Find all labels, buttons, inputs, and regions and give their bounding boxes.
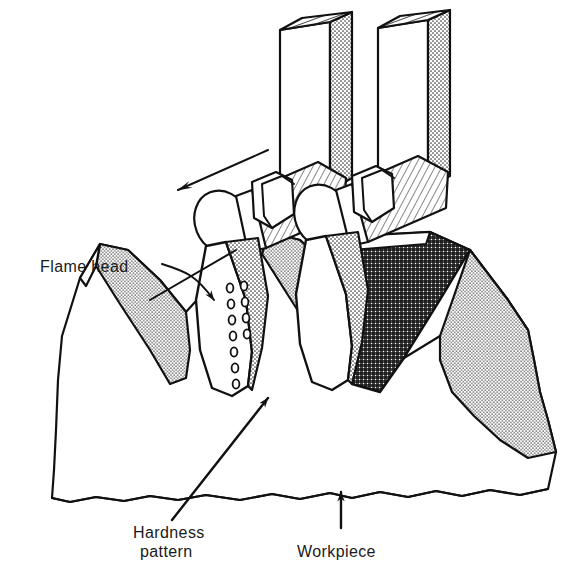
label-workpiece: Workpiece — [297, 543, 376, 560]
flame-head-left — [196, 238, 268, 396]
figure-canvas: Flame head Hardness pattern Workpiece — [0, 0, 580, 575]
tube-right-side-stipple — [428, 10, 450, 188]
flame-hardening-figure: Flame head Hardness pattern Workpiece — [0, 0, 580, 575]
label-hardness-pattern-line1: Hardness — [133, 524, 205, 541]
label-flame-head: Flame head — [40, 258, 129, 275]
tube-left-side-stipple — [330, 12, 352, 190]
flame-head-right — [296, 232, 368, 390]
label-hardness-pattern-line2: pattern — [140, 543, 193, 560]
